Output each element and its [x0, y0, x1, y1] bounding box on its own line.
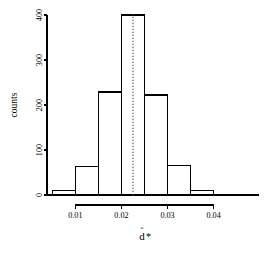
x-axis-title-hat: ˆ	[141, 226, 144, 236]
x-axis-tick-label: 0.02	[114, 211, 128, 220]
histogram-bar	[168, 166, 191, 195]
histogram-bar	[98, 92, 121, 195]
histogram-bar	[75, 167, 98, 195]
plot-canvas: 0100200300400 0.010.020.030.04 counts dˆ…	[0, 0, 273, 254]
histogram-bar	[145, 95, 168, 195]
y-axis-tick-label: 200	[35, 99, 44, 111]
x-axis-title-star: *	[146, 231, 151, 242]
y-axis-tick-label: 300	[35, 54, 44, 66]
y-axis-tick-label: 0	[35, 193, 44, 197]
y-axis-label: counts	[9, 92, 19, 117]
y-axis-title: counts	[9, 92, 19, 117]
x-axis-tick-label: 0.04	[206, 211, 220, 220]
y-axis-tick-label: 400	[35, 9, 44, 21]
histogram-plot: 0100200300400 0.010.020.030.04 counts dˆ…	[0, 0, 273, 254]
y-axis-tick-label: 100	[35, 144, 44, 156]
x-axis-tick-label: 0.01	[68, 211, 82, 220]
x-axis-tick-label: 0.03	[160, 211, 174, 220]
